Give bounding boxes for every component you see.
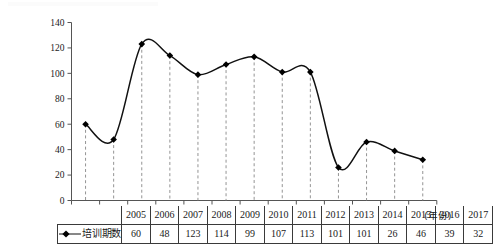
data-point-marker [391,148,398,155]
data-point-marker [223,61,230,68]
data-point-marker [251,54,258,61]
y-tick-label: 60 [55,120,65,130]
data-point-marker [419,157,426,164]
year-cell: 2011 [293,206,321,225]
table-row-values: 培训期数 60481231149910711310110126463932 [58,225,493,244]
y-tick-label: 40 [55,145,65,155]
year-cell: 2007 [179,206,208,225]
value-cell: 46 [407,225,436,244]
line-chart-svg: 140120100806040200 [0,0,493,214]
y-tick-label: 120 [50,43,65,53]
year-cell: 2013 [350,206,379,225]
line-with-diamond-marker-icon [59,229,81,239]
value-cell: 114 [207,225,236,244]
legend-row-header: 培训期数 [58,225,122,244]
value-cell: 107 [264,225,293,244]
y-tick-label: 140 [50,18,65,28]
year-cell: 2005 [122,206,151,225]
y-axis: 140120100806040200 [50,18,71,206]
y-tick-label: 20 [55,170,65,180]
plot-area: 140120100806040200 [0,0,493,214]
value-cell: 123 [179,225,208,244]
value-cell: 101 [321,225,350,244]
y-tick-label: 0 [60,196,65,206]
value-cell: 60 [122,225,151,244]
data-point-marker [195,71,202,78]
value-cell: 32 [464,225,493,244]
value-cell: 113 [293,225,321,244]
year-cell: 2012 [321,206,350,225]
year-cell: 2009 [236,206,265,225]
value-cell: 99 [236,225,265,244]
chart-figure: 140120100806040200 200520062007200820092… [0,0,493,248]
y-tick-label: 100 [50,69,65,79]
year-row-header-blank [58,206,122,225]
series-markers [82,41,426,171]
year-cell: 2017 [464,206,493,225]
value-cell: 48 [150,225,179,244]
x-axis [72,201,437,205]
year-cell: 2006 [150,206,179,225]
value-cell: 39 [435,225,464,244]
year-cell: 2014 [378,206,407,225]
droplines [86,44,423,200]
year-cell: 2008 [207,206,236,225]
year-cell: 2010 [264,206,293,225]
legend-label: 培训期数 [82,225,121,243]
x-axis-unit-label: (年份) [424,207,451,225]
value-cell: 101 [350,225,379,244]
value-cell: 26 [378,225,407,244]
data-point-marker [279,69,286,76]
y-tick-label: 80 [55,94,65,104]
